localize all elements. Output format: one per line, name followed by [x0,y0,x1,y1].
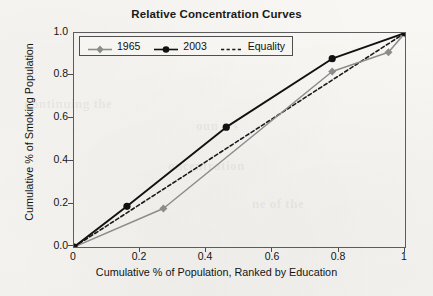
y-tick-label: 0.8 [34,67,68,79]
data-point-2003 [223,124,230,131]
legend-item-2003[interactable]: 2003 [153,40,206,52]
data-point-2003 [329,55,336,62]
y-tick-0.6: 0.6 [30,110,68,123]
plot-svg [74,33,405,247]
y-tick-label: 0.2 [34,196,68,208]
y-tick-label: 0.4 [34,153,68,165]
y-axis-label: Cumulative % of Smoking Population [23,25,35,239]
y-tick-label: 1.0 [34,25,68,37]
legend-dashed-line-icon [220,41,244,52]
y-tick-0.4: 0.4 [30,153,68,166]
legend-item-equality[interactable]: Equality [220,40,285,52]
legend-label: 2003 [183,40,206,52]
legend-diamond-marker-icon [87,41,113,52]
legend-label: 1965 [117,40,140,52]
plot-area [73,32,406,248]
chart-page: nontinuing the oun tes oncentration ne o… [0,0,433,296]
series-line-equality [74,33,405,247]
legend-circle-marker-icon [153,41,179,52]
y-tick-0.8: 0.8 [30,67,68,80]
x-axis-label: Cumulative % of Population, Ranked by Ed… [0,266,433,278]
legend-item-1965[interactable]: 1965 [87,40,140,52]
data-point-2003 [123,203,130,210]
chart-title: Relative Concentration Curves [0,8,433,20]
chart-legend: 1965 2003 Equality [79,36,293,56]
x-tick-label: 0 [53,250,93,262]
y-tick-1.0: 1.0 [30,25,68,38]
y-tick-label: 0.6 [34,110,68,122]
y-tick-0.2: 0.2 [30,196,68,209]
legend-label: Equality [248,40,285,52]
